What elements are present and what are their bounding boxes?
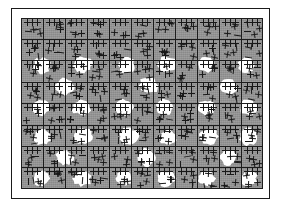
barb-tick-icon [177, 161, 184, 168]
barb-tick-icon [71, 139, 79, 147]
barb-tick-icon [134, 40, 141, 47]
barb-tick-icon [114, 95, 122, 103]
barb-tick-icon [222, 147, 229, 154]
grid-line-vertical [109, 18, 110, 189]
barb-tick-icon [178, 132, 185, 139]
barb-tick-icon [231, 22, 239, 30]
barb-tick-icon [227, 126, 234, 133]
barb-tick-icon [210, 182, 217, 188]
barb-tick-icon [201, 182, 209, 189]
barb-tick-icon [123, 32, 130, 39]
barb-tick-icon [68, 126, 75, 133]
barb-tick-icon [56, 131, 64, 139]
barb-tick-icon [110, 67, 118, 75]
barb-tick-icon [91, 178, 99, 186]
barb-tick-icon [231, 20, 239, 28]
barb-tick-icon [34, 61, 41, 68]
barb-tick-icon [232, 168, 239, 175]
barb-tick-icon [200, 147, 207, 154]
barb-tick-icon [117, 147, 124, 154]
barb-tick-icon [110, 153, 118, 161]
barb-tick-icon [221, 41, 229, 49]
barb-tick-icon [234, 152, 242, 160]
barb-tick-icon [100, 175, 108, 183]
white-patch [118, 127, 140, 147]
barb-tick-icon [24, 168, 31, 175]
barb-tick-icon [54, 169, 62, 177]
barb-tick-icon [93, 41, 100, 48]
barb-tick-icon [200, 126, 207, 133]
barb-tick-icon [227, 83, 234, 90]
barb-tick-icon [90, 83, 97, 90]
barb-tick-icon [244, 181, 251, 188]
barb-tick-icon [90, 61, 97, 68]
barb-tick-icon [52, 63, 60, 71]
barb-tick-icon [72, 52, 79, 59]
barb-tick-icon [34, 106, 41, 113]
barb-tick-icon [142, 133, 150, 141]
barb-tick-icon [68, 40, 75, 47]
barb-tick-icon [112, 61, 119, 68]
barb-tick-icon [200, 83, 207, 90]
barb-tick-icon [181, 24, 189, 32]
barb-tick-icon [204, 158, 212, 166]
barb-tick-icon [180, 176, 188, 184]
barb-tick-icon [139, 126, 146, 133]
barb-tick-icon [68, 19, 75, 26]
barb-tick-icon [209, 45, 216, 52]
barb-tick-icon [73, 91, 80, 98]
barb-tick-icon [186, 128, 194, 136]
barb-tick-icon [100, 19, 107, 26]
barb-tick-icon [46, 147, 53, 154]
grid-line-horizontal [21, 146, 263, 147]
barb-tick-icon [145, 65, 153, 73]
barb-tick-icon [117, 40, 124, 47]
barb-tick-icon [100, 40, 107, 47]
barb-tick-icon [25, 161, 33, 169]
barb-tick-icon [256, 112, 263, 120]
barb-tick-icon [210, 47, 217, 54]
barb-tick-icon [56, 61, 63, 68]
barb-tick-icon [117, 61, 124, 68]
barb-tick-icon [100, 104, 107, 111]
barb-tick-icon [210, 61, 217, 68]
barb-tick-icon [161, 19, 168, 26]
barb-tick-icon [140, 92, 147, 99]
barb-tick-icon [88, 74, 96, 82]
barb-tick-icon [156, 68, 163, 75]
barb-tick-icon [122, 40, 129, 47]
barb-tick-icon [145, 74, 153, 82]
barb-tick-icon [100, 83, 107, 90]
barb-tick-icon [122, 83, 129, 90]
barb-tick-icon [26, 48, 33, 55]
barb-tick-icon [156, 87, 164, 95]
barb-tick-icon [139, 19, 146, 26]
barb-tick-icon [156, 114, 164, 122]
barb-tick-icon [249, 61, 256, 68]
barb-tick-icon [162, 48, 170, 56]
barb-tick-icon [34, 178, 42, 186]
barb-tick-icon [254, 91, 262, 99]
white-patch [159, 129, 179, 147]
barb-tick-icon [66, 158, 74, 166]
barb-tick-icon [110, 112, 118, 120]
barb-tick-icon [168, 175, 175, 182]
barb-tick-icon [178, 61, 185, 68]
barb-tick-icon [199, 137, 206, 144]
barb-tick-icon [68, 83, 75, 90]
barb-tick-icon [189, 179, 197, 187]
barb-tick-icon [254, 64, 261, 71]
grid-line-vertical [197, 18, 198, 189]
barb-tick-icon [78, 126, 85, 133]
barb-tick-icon [73, 104, 80, 111]
barb-tick-icon [56, 83, 63, 90]
barb-tick-icon [115, 137, 122, 144]
barb-tick-icon [222, 104, 229, 111]
barb-tick-icon [144, 40, 151, 47]
barb-tick-icon [32, 153, 39, 160]
barb-tick-icon [67, 151, 75, 159]
barb-tick-icon [24, 104, 31, 111]
barb-tick-icon [185, 63, 193, 71]
barb-tick-icon [97, 177, 104, 184]
white-patch [156, 170, 178, 188]
